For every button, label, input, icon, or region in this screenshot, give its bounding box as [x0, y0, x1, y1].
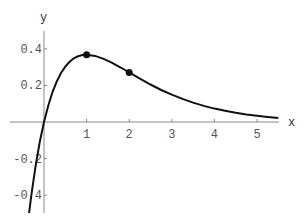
x-axis-label: x: [288, 116, 295, 130]
x-tick-label: 5: [253, 128, 260, 142]
y-tick-label: 0.4: [20, 43, 42, 57]
data-point-marker: [126, 69, 133, 76]
y-ticks: -0.4-0.20.20.4: [13, 43, 47, 203]
y-tick-label: 0.2: [20, 79, 42, 93]
y-tick-label: -0.4: [13, 189, 42, 203]
data-point-marker: [83, 51, 90, 58]
x-tick-label: 3: [168, 128, 175, 142]
axes: 12345 -0.4-0.20.20.4 x y: [10, 11, 295, 213]
x-tick-label: 4: [211, 128, 218, 142]
x-tick-label: 2: [126, 128, 133, 142]
y-axis-label: y: [40, 11, 47, 25]
function-plot: 12345 -0.4-0.20.20.4 x y: [0, 0, 308, 224]
function-curve: [29, 55, 278, 213]
x-tick-label: 1: [83, 128, 90, 142]
